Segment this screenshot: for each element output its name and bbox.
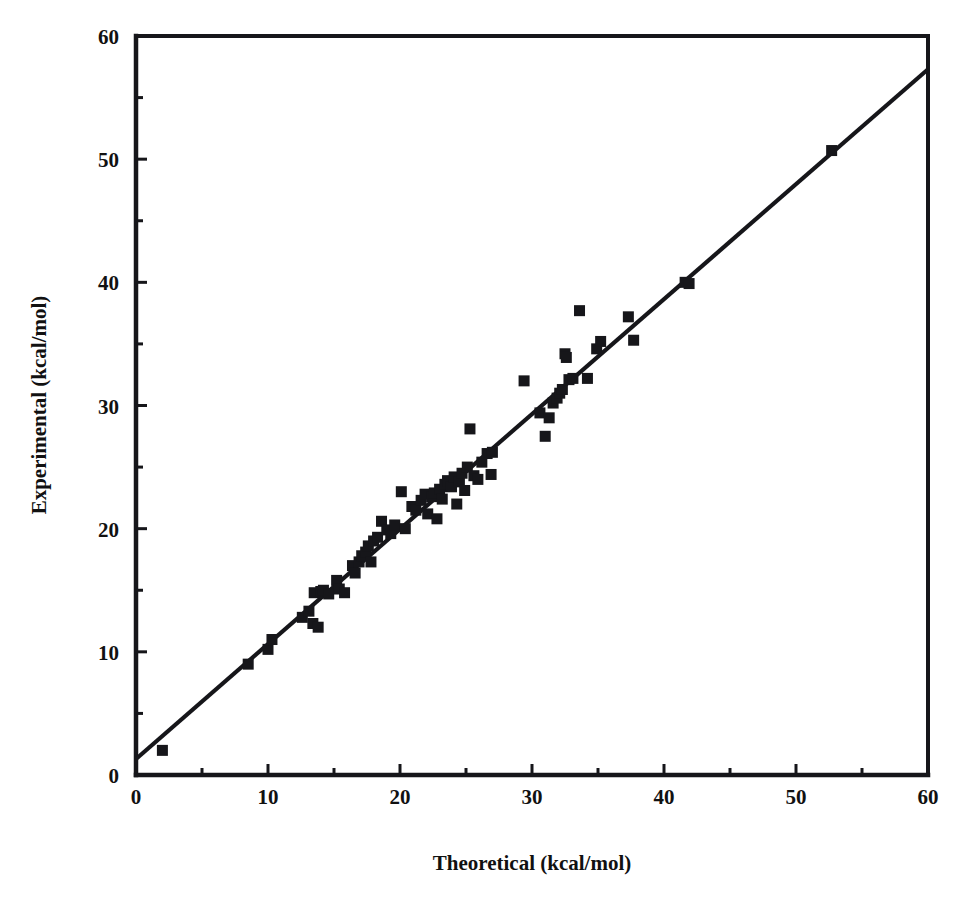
y-axis-title: Experimental (kcal/mol): [27, 296, 51, 515]
data-point: [464, 423, 475, 434]
y-tick-label: 50: [98, 148, 119, 172]
x-tick-label: 40: [654, 785, 675, 809]
data-point: [437, 494, 448, 505]
data-point: [486, 469, 497, 480]
data-point: [540, 431, 551, 442]
scatter-plot-figure: 01020304050600102030405060 Theoretical (…: [0, 0, 961, 898]
data-point: [323, 588, 334, 599]
axis-ticks: [136, 36, 928, 775]
data-point: [431, 513, 442, 524]
data-point: [459, 485, 470, 496]
data-point: [595, 336, 606, 347]
data-point: [544, 412, 555, 423]
x-tick-label: 60: [918, 785, 939, 809]
x-tick-label: 0: [131, 785, 142, 809]
y-tick-label: 0: [109, 764, 120, 788]
data-point: [365, 556, 376, 567]
data-point: [157, 745, 168, 756]
data-point: [684, 278, 695, 289]
data-point: [519, 375, 530, 386]
plot-canvas: 01020304050600102030405060 Theoretical (…: [0, 0, 961, 898]
y-tick-label: 20: [98, 518, 119, 542]
data-point: [557, 384, 568, 395]
y-tick-label: 60: [98, 25, 119, 49]
x-tick-label: 50: [786, 785, 807, 809]
data-point: [303, 606, 314, 617]
x-tick-label: 30: [522, 785, 543, 809]
y-tick-label: 30: [98, 395, 119, 419]
data-point: [451, 499, 462, 510]
data-point: [263, 644, 274, 655]
y-tick-label: 40: [98, 271, 119, 295]
data-point: [243, 659, 254, 670]
y-tick-label: 10: [98, 641, 119, 665]
data-point: [487, 447, 498, 458]
regression-line: [136, 69, 928, 759]
data-point: [266, 634, 277, 645]
data-point: [561, 352, 572, 363]
data-point: [389, 519, 400, 530]
data-point: [350, 568, 361, 579]
data-point: [313, 622, 324, 633]
data-point: [400, 523, 411, 534]
data-point: [339, 587, 350, 598]
data-point: [567, 373, 578, 384]
x-axis-title: Theoretical (kcal/mol): [433, 851, 632, 875]
plot-frame: [136, 36, 928, 775]
data-point: [628, 335, 639, 346]
data-point: [396, 486, 407, 497]
data-point: [582, 373, 593, 384]
data-point: [410, 505, 421, 516]
x-tick-label: 10: [258, 785, 279, 809]
fit-line-group: [136, 69, 928, 759]
data-point: [623, 311, 634, 322]
x-tick-label: 20: [390, 785, 411, 809]
data-point: [574, 305, 585, 316]
data-point: [472, 474, 483, 485]
axis-tick-labels: 01020304050600102030405060: [98, 25, 939, 809]
data-point: [826, 145, 837, 156]
